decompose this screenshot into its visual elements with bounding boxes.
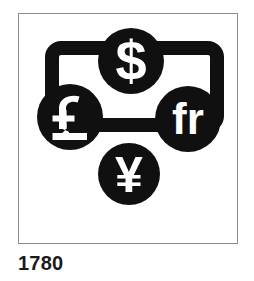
page-root: fr $ ¥ 1780 <box>0 0 254 281</box>
currency-exchange-pictogram: fr $ ¥ <box>19 14 239 245</box>
yen-icon: ¥ <box>115 147 143 203</box>
dollar-icon: $ <box>115 29 146 92</box>
figure-caption: 1780 <box>18 251 138 275</box>
franc-icon: fr <box>172 94 204 143</box>
coin-franc: fr <box>155 86 221 152</box>
pound-base <box>53 133 88 140</box>
coin-pound <box>37 84 103 150</box>
pictogram-frame: fr $ ¥ <box>18 13 238 244</box>
coin-dollar: $ <box>98 28 164 94</box>
pound-crossbar <box>53 116 75 122</box>
coin-yen: ¥ <box>98 143 160 205</box>
